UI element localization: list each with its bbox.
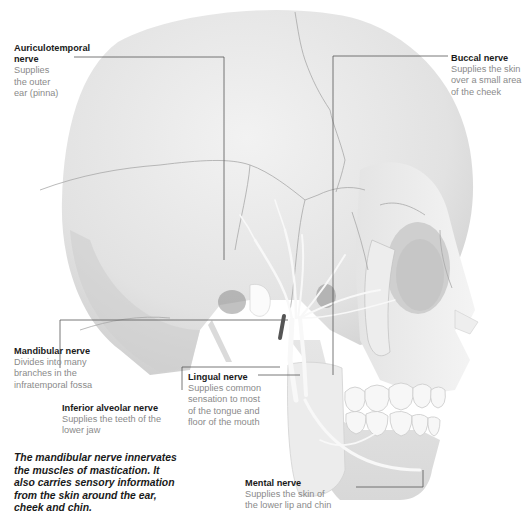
label-title: Mandibular nerve [14, 346, 124, 357]
label-description: Supplies the skin over a small area of t… [451, 64, 524, 98]
label-buccal-nerve: Buccal nerve Supplies the skin over a sm… [451, 53, 524, 98]
label-mandibular-nerve: Mandibular nerve Divides into many branc… [14, 346, 124, 391]
diagram-caption: The mandibular nerve innervates the musc… [14, 452, 194, 515]
label-description: Supplies the outer ear (pinna) [14, 65, 114, 99]
label-description: Supplies the skin of the lower lip and c… [245, 489, 355, 511]
label-title: Inferior alveolar nerve [62, 403, 192, 414]
label-title: nerve [14, 54, 114, 65]
label-title: Buccal nerve [451, 53, 524, 64]
label-description: Divides into many branches in the infrat… [14, 357, 124, 391]
label-title: Auriculotemporal [14, 43, 114, 54]
label-title: Mental nerve [245, 478, 355, 489]
label-inferior-alveolar-nerve: Inferior alveolar nerve Supplies the tee… [62, 403, 192, 437]
label-title: Lingual nerve [188, 372, 273, 383]
label-description: Supplies common sensation to most of the… [188, 383, 273, 428]
teeth [345, 383, 446, 436]
label-lingual-nerve: Lingual nerve Supplies common sensation … [188, 372, 273, 428]
nerve-stump-dark [280, 316, 284, 338]
label-description: Supplies the teeth of the lower jaw [62, 414, 192, 436]
label-auriculotemporal-nerve: Auriculotemporal nerve Supplies the oute… [14, 43, 114, 99]
label-mental-nerve: Mental nerve Supplies the skin of the lo… [245, 478, 355, 512]
